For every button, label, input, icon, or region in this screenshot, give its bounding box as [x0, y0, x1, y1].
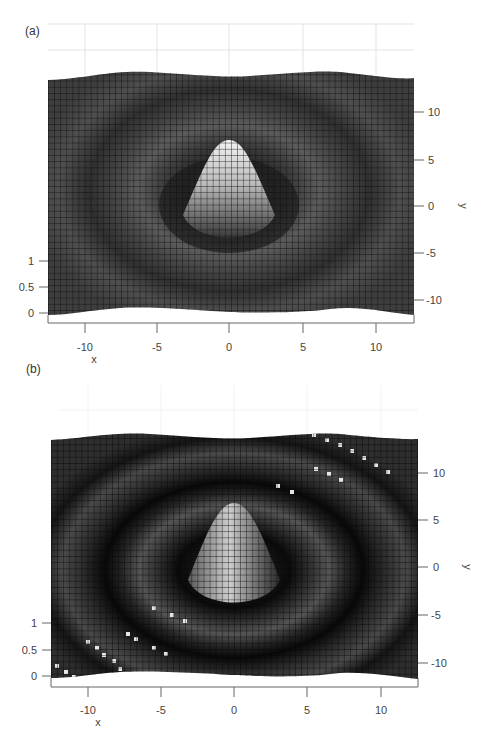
- x-tick-label: 10: [370, 341, 382, 353]
- z-tick-label: 0.5: [19, 281, 34, 293]
- x-tick-label: 10: [375, 704, 387, 716]
- panel-b: (b): [0, 370, 491, 748]
- x-axis-b: [88, 687, 381, 697]
- z-tick-label: 1: [31, 617, 37, 629]
- y-tick-label: -10: [426, 294, 442, 306]
- y-axis-title: y: [462, 564, 474, 570]
- surface-plot-b: -10 -5 0 5 10 x 10 5 0 -5 -10 y 1 0.5 0: [0, 370, 491, 748]
- y-tick-label: -10: [431, 657, 447, 669]
- plot-box-a: [48, 315, 414, 323]
- surface-mesh-a: [48, 60, 414, 320]
- x-tick-label: 0: [231, 704, 237, 716]
- z-tick-label: 1: [28, 255, 34, 267]
- x-axis-a: [85, 323, 376, 333]
- surface-mesh-b: [51, 425, 418, 685]
- y-axis-title: y: [458, 203, 470, 209]
- z-tick-label: 0: [31, 670, 37, 682]
- y-tick-label: 5: [433, 514, 439, 526]
- x-tick-label: -10: [77, 341, 93, 353]
- x-tick-label: -10: [80, 704, 96, 716]
- z-axis-b: [42, 623, 51, 676]
- x-tick-label: -5: [156, 704, 166, 716]
- y-axis-a: [414, 112, 424, 300]
- y-tick-label: -5: [431, 609, 441, 621]
- z-tick-label: 0.5: [22, 644, 37, 656]
- x-tick-label: -5: [152, 341, 162, 353]
- z-tick-label: 0: [28, 307, 34, 319]
- panel-a: (a): [0, 0, 491, 370]
- y-axis-b: [418, 473, 428, 663]
- y-tick-label: 5: [428, 154, 434, 166]
- y-tick-label: 0: [433, 561, 439, 573]
- surface-plot-a: -10 -5 0 5 10 x 10 5 0 -5 -10 y 1 0.5 0: [0, 0, 491, 370]
- y-tick-label: 10: [428, 106, 440, 118]
- x-tick-label: 0: [226, 341, 232, 353]
- y-tick-label: 10: [433, 467, 445, 479]
- background-gridlines: [48, 24, 414, 75]
- x-axis-title: x: [95, 716, 101, 728]
- z-axis-a: [39, 261, 48, 313]
- background-gridlines: [60, 385, 418, 438]
- x-tick-label: 5: [304, 704, 310, 716]
- y-tick-label: 0: [428, 200, 434, 212]
- plot-box-b: [51, 678, 418, 687]
- x-axis-title: x: [91, 353, 97, 365]
- x-tick-label: 5: [300, 341, 306, 353]
- y-tick-label: -5: [426, 247, 436, 259]
